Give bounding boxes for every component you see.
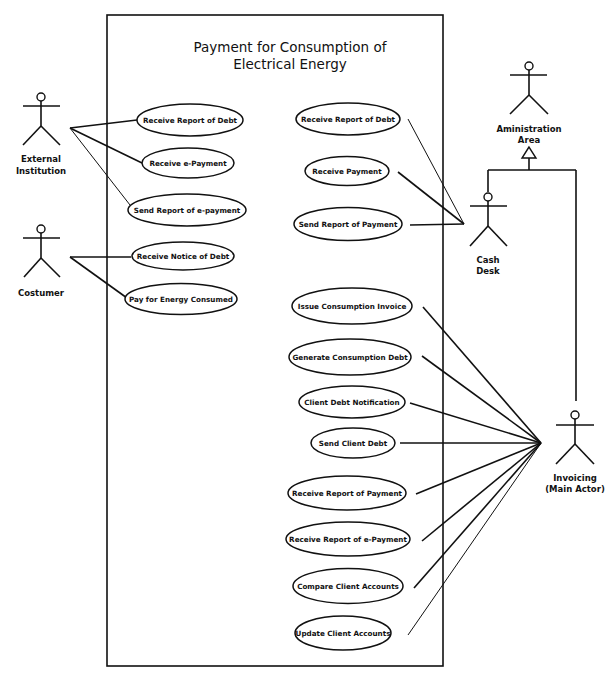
associations-cash-desk bbox=[398, 119, 464, 225]
use-case[interactable]: Pay for Energy Consumed bbox=[125, 284, 237, 315]
stick-figure-icon bbox=[510, 62, 548, 114]
stick-figure-icon bbox=[556, 411, 594, 464]
assoc-inv-uc15 bbox=[414, 443, 541, 588]
stick-figure-icon bbox=[23, 93, 60, 145]
actor-label: Area bbox=[518, 135, 541, 145]
assoc-cash-uc6 bbox=[408, 119, 464, 224]
use-case[interactable]: Receive Report of Payment bbox=[288, 476, 406, 510]
use-case-label: Update Client Accounts bbox=[296, 629, 391, 638]
actor-label: Cash bbox=[476, 255, 499, 265]
use-case-label: Pay for Energy Consumed bbox=[129, 295, 233, 304]
use-case[interactable]: Issue Consumption Invoice bbox=[292, 288, 412, 324]
use-case-label: Receive Report of Debt bbox=[143, 116, 238, 125]
use-case[interactable]: Receive Report of Debt bbox=[137, 104, 243, 136]
use-case-diagram: Payment for Consumption of Electrical En… bbox=[0, 0, 616, 679]
use-case-label: Send Report of e-payment bbox=[134, 206, 241, 215]
assoc-cash-uc7 bbox=[398, 172, 464, 224]
assoc-ext-uc3 bbox=[70, 128, 130, 205]
use-case-label: Receive Report of e-Payment bbox=[289, 535, 407, 544]
use-case-label: Issue Consumption Invoice bbox=[298, 302, 407, 311]
actor-label: Desk bbox=[476, 266, 500, 276]
generalization-administration-area bbox=[488, 147, 576, 401]
use-case[interactable]: Update Client Accounts bbox=[295, 616, 391, 650]
use-case-label: Generate Consumption Debt bbox=[292, 353, 408, 362]
use-case[interactable]: Compare Client Accounts bbox=[293, 569, 403, 604]
actor-invoicing[interactable]: Invoicing (Main Actor) bbox=[545, 411, 605, 494]
actor-label: Aministration bbox=[496, 124, 561, 134]
associations-external-institution bbox=[70, 120, 142, 205]
stick-figure-icon bbox=[470, 193, 507, 246]
use-case-label: Client Debt Notification bbox=[304, 398, 399, 407]
use-case[interactable]: Send Client Debt bbox=[311, 428, 395, 458]
actor-label: External bbox=[21, 154, 61, 164]
use-case[interactable]: Receive Report of Debt bbox=[296, 103, 400, 135]
assoc-ext-uc2 bbox=[70, 128, 142, 163]
assoc-inv-uc14 bbox=[422, 443, 541, 541]
use-case-label: Receive Notice of Debt bbox=[137, 252, 230, 261]
use-case[interactable]: Receive Notice of Debt bbox=[132, 242, 234, 270]
assoc-inv-uc16 bbox=[408, 443, 541, 635]
use-case[interactable]: Generate Consumption Debt bbox=[289, 339, 411, 375]
use-case[interactable]: Receive e-Payment bbox=[142, 148, 234, 178]
actor-administration-area[interactable]: Aministration Area bbox=[496, 62, 561, 145]
associations-invoicing bbox=[400, 307, 541, 635]
use-case[interactable]: Receive Payment bbox=[305, 157, 389, 186]
use-case-label: Send Client Debt bbox=[319, 439, 388, 448]
system-title-line1: Payment for Consumption of bbox=[194, 39, 388, 55]
assoc-ext-uc1 bbox=[70, 120, 137, 128]
actor-label: Invoicing bbox=[553, 473, 597, 483]
associations-costumer bbox=[70, 257, 131, 298]
use-case-label: Receive Payment bbox=[312, 167, 382, 176]
use-case-label: Receive Report of Payment bbox=[292, 489, 402, 498]
assoc-cash-uc8 bbox=[410, 224, 464, 225]
system-title-line2: Electrical Energy bbox=[233, 56, 347, 72]
assoc-cost-uc5 bbox=[70, 257, 127, 298]
actor-label: Institution bbox=[16, 166, 66, 176]
use-case[interactable]: Client Debt Notification bbox=[299, 386, 405, 418]
actor-label: (Main Actor) bbox=[545, 484, 605, 494]
assoc-inv-uc11 bbox=[410, 403, 541, 443]
assoc-inv-uc13 bbox=[416, 443, 541, 494]
assoc-inv-uc9 bbox=[423, 307, 541, 443]
use-case[interactable]: Send Report of e-payment bbox=[128, 194, 246, 226]
use-case[interactable]: Send Report of Payment bbox=[294, 208, 402, 241]
stick-figure-icon bbox=[23, 225, 60, 277]
use-case-label: Send Report of Payment bbox=[299, 220, 398, 229]
actor-cash-desk[interactable]: Cash Desk bbox=[470, 193, 507, 276]
assoc-inv-uc10 bbox=[422, 356, 541, 443]
generalization-arrow-icon bbox=[522, 147, 536, 158]
actor-costumer[interactable]: Costumer bbox=[18, 225, 65, 298]
actor-external-institution[interactable]: External Institution bbox=[16, 93, 66, 176]
use-case-label: Compare Client Accounts bbox=[297, 582, 399, 591]
use-case-label: Receive Report of Debt bbox=[301, 115, 396, 124]
use-case-label: Receive e-Payment bbox=[149, 159, 227, 168]
actor-label: Costumer bbox=[18, 288, 65, 298]
use-case[interactable]: Receive Report of e-Payment bbox=[286, 522, 410, 556]
